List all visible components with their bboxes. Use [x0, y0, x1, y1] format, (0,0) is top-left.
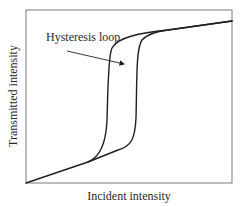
- annotation-arrow: [67, 51, 124, 64]
- x-axis-label: Incident intensity: [87, 189, 171, 203]
- lower-branch-curve: [26, 21, 232, 183]
- annotation-label: Hysteresis loop: [46, 30, 120, 44]
- hysteresis-chart: Hysteresis loop Incident intensity Trans…: [0, 0, 243, 206]
- y-axis-label: Transmitted intensity: [6, 45, 20, 147]
